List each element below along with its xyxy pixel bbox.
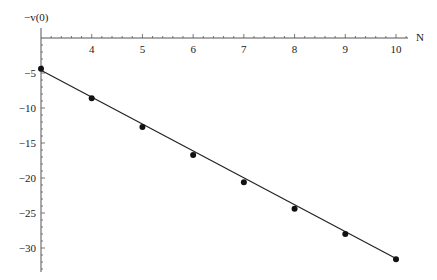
chart: 45678910−5−10−15−20−25−30 −v(0) N xyxy=(0,0,437,280)
data-point xyxy=(190,152,196,158)
y-tick-label: −25 xyxy=(19,207,37,219)
x-tick-label: 4 xyxy=(89,43,95,55)
data-point xyxy=(292,206,298,212)
data-point xyxy=(241,179,247,185)
data-point xyxy=(139,124,145,130)
axis-ticks xyxy=(41,34,406,269)
data-point xyxy=(393,256,399,262)
x-tick-label: 10 xyxy=(391,43,403,55)
data-point xyxy=(342,231,348,237)
x-tick-label: 8 xyxy=(292,43,298,55)
y-tick-label: −10 xyxy=(19,102,37,114)
y-tick-label: −30 xyxy=(19,242,37,254)
data-point xyxy=(38,66,44,72)
x-tick-label: 5 xyxy=(140,43,146,55)
x-axis-label: N xyxy=(416,31,424,43)
y-tick-label: −20 xyxy=(19,172,37,184)
y-tick-label: −5 xyxy=(24,67,36,79)
tick-labels: 45678910−5−10−15−20−25−30 xyxy=(19,43,402,254)
y-axis-label: −v(0) xyxy=(24,11,49,24)
x-tick-label: 7 xyxy=(241,43,247,55)
x-tick-label: 9 xyxy=(343,43,349,55)
data-point xyxy=(89,95,95,101)
y-tick-label: −15 xyxy=(19,137,37,149)
x-tick-label: 6 xyxy=(190,43,196,55)
